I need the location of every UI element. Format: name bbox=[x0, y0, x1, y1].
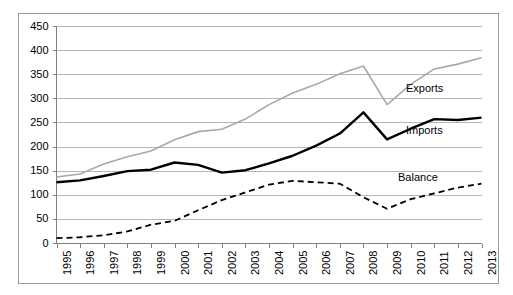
x-tick-label: 2002 bbox=[227, 250, 238, 274]
series-line-exports bbox=[57, 58, 482, 177]
x-tick-label: 2010 bbox=[416, 250, 427, 274]
x-axis-ticks-group bbox=[53, 27, 483, 248]
series-line-balance bbox=[57, 181, 482, 238]
y-tick-label: 100 bbox=[17, 189, 49, 200]
x-tick-label: 1995 bbox=[62, 250, 73, 274]
y-tick-label: 450 bbox=[17, 21, 49, 32]
x-tick-label: 2012 bbox=[463, 250, 474, 274]
y-tick-label: 0 bbox=[17, 238, 49, 249]
x-tick-label: 2008 bbox=[368, 250, 379, 274]
y-tick-label: 200 bbox=[17, 141, 49, 152]
x-tick-label: 2003 bbox=[250, 250, 261, 274]
y-tick-label: 400 bbox=[17, 45, 49, 56]
x-tick-label: 2004 bbox=[274, 250, 285, 274]
x-tick-label: 2011 bbox=[439, 251, 450, 275]
x-tick-label: 1996 bbox=[85, 250, 96, 274]
series-label-imports: Imports bbox=[406, 125, 443, 136]
x-tick-label: 1999 bbox=[156, 250, 167, 274]
series-label-balance: Balance bbox=[398, 172, 438, 183]
x-tick-label: 2009 bbox=[392, 250, 403, 274]
x-tick-label: 1998 bbox=[132, 250, 143, 274]
x-tick-label: 1997 bbox=[109, 250, 120, 274]
x-tick-label: 2001 bbox=[203, 250, 214, 274]
x-tick-label: 2013 bbox=[487, 250, 498, 274]
y-tick-label: 150 bbox=[17, 165, 49, 176]
y-tick-label: 250 bbox=[17, 117, 49, 128]
series-label-exports: Exports bbox=[406, 83, 443, 94]
x-tick-label: 2006 bbox=[321, 250, 332, 274]
y-tick-label: 300 bbox=[17, 93, 49, 104]
x-tick-label: 2005 bbox=[298, 250, 309, 274]
y-tick-label: 350 bbox=[17, 69, 49, 80]
x-tick-label: 2007 bbox=[345, 250, 356, 274]
x-tick-label: 2000 bbox=[180, 250, 191, 274]
y-tick-label: 50 bbox=[17, 213, 49, 224]
chart-figure: 050100150200250300350400450 199519961997… bbox=[0, 0, 513, 295]
